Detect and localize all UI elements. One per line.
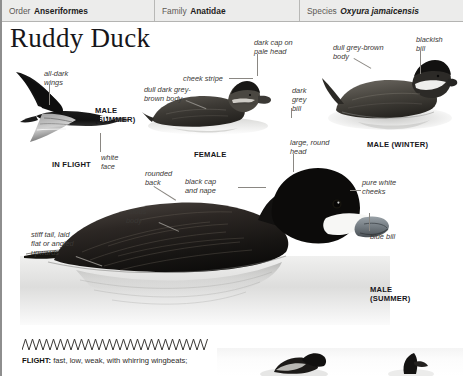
annotation-rounded-back: rounded back	[145, 169, 172, 187]
leader-large-round-head	[293, 154, 294, 172]
flight-label: FLIGHT:	[22, 356, 51, 365]
caption-male-winter: MALE (WINTER)	[367, 140, 428, 149]
taxonomy-header: Order Anseriformes Family Anatidae Speci…	[2, 0, 463, 22]
taxonomy-family-key: Family	[162, 6, 187, 16]
annotation-dark-cap-on-pale-head: dark cap on pale head	[254, 38, 293, 56]
flight-text-body: fast, low, weak, with whirring wingbeats…	[51, 356, 187, 365]
page-title: Ruddy Duck	[10, 25, 150, 52]
field-guide-page: Order Anseriformes Family Anatidae Speci…	[0, 0, 463, 376]
taxonomy-species-key: Species	[307, 6, 337, 16]
annotation-cheek-stripe: cheek stripe	[183, 74, 223, 83]
taxonomy-order-key: Order	[9, 6, 30, 16]
taxonomy-species-value: Oxyura jamaicensis	[340, 6, 419, 16]
annotation-stiff-tail: stiff tail, laid flat or angled upwards	[31, 230, 74, 257]
taxonomy-species-cell: Species Oxyura jamaicensis	[299, 0, 463, 21]
flight-path-zigzag-icon	[22, 338, 208, 351]
annotation-dull-grey-brown-body: dull grey-brown body	[333, 43, 384, 61]
annotation-all-dark-wings: all-dark wings	[44, 69, 68, 87]
leader-cheek-stripe	[229, 78, 253, 79]
caption-female: FEMALE	[194, 150, 226, 159]
annotation-dark-grey-bill: dark grey bill	[292, 86, 306, 113]
leader-dark-cap-on-pale-head	[257, 54, 258, 76]
annotation-black-cap-and-nape: black cap and nape	[185, 177, 216, 195]
taxonomy-order-cell: Order Anseriformes	[2, 0, 154, 21]
annotation-pure-white-cheeks: pure white cheeks	[362, 178, 396, 196]
leader-white-face	[100, 133, 101, 152]
caption-male-summer-small: MALE (SUMMER)	[95, 106, 135, 125]
bottom-duck-photo-left	[260, 352, 330, 376]
leader-all-dark-wings	[49, 84, 50, 105]
taxonomy-family-cell: Family Anatidae	[154, 0, 299, 21]
leader-blue-bill	[369, 213, 370, 231]
leader-black-cap-and-nape	[238, 187, 266, 188]
taxonomy-family-value: Anatidae	[190, 6, 225, 16]
winter-male-duck-illustration	[318, 52, 458, 140]
annotation-rufous-body: rufous body	[126, 207, 147, 225]
annotation-blue-bill: blue bill	[370, 232, 395, 241]
caption-male-summer-main: MALE (SUMMER)	[370, 285, 410, 304]
leader-dark-grey-bill	[291, 108, 292, 118]
annotation-large-round-head: large, round head	[290, 138, 329, 156]
leader-blackish-bill	[420, 51, 421, 74]
annotation-dull-dark-grey-brown-body: dull dark grey- brown body	[144, 85, 191, 103]
taxonomy-order-value: Anseriformes	[34, 6, 88, 16]
bottom-duck-photo-right	[388, 352, 434, 376]
leader-pure-white-cheeks	[350, 190, 361, 191]
